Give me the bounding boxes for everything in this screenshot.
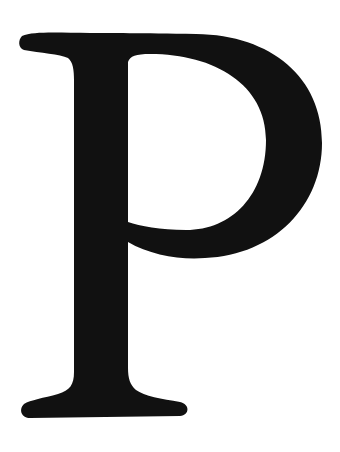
letter-p-shape <box>0 0 340 452</box>
letter-p-glyph: P <box>0 0 340 452</box>
